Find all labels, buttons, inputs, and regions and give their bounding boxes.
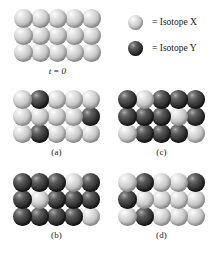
panel-d: (d)	[119, 174, 204, 225]
isotope-y-sphere	[135, 107, 154, 126]
isotope-x-sphere	[30, 107, 49, 126]
isotope-y-sphere	[152, 107, 171, 126]
isotope-x-sphere	[152, 207, 171, 226]
isotope-y-sphere	[47, 173, 66, 192]
isotope-x-sphere	[48, 43, 67, 62]
isotope-x-sphere	[65, 26, 84, 45]
isotope-x-sphere	[30, 190, 49, 209]
isotope-x-sphere	[64, 107, 83, 126]
isotope-y-sphere	[13, 190, 32, 209]
sphere-grid-c	[119, 91, 204, 142]
panel-caption-b: (b)	[14, 230, 99, 240]
isotope-y-sphere	[64, 190, 83, 209]
legend-label-isotope-x: = Isotope X	[152, 17, 197, 27]
isotope-y-sphere	[152, 90, 171, 109]
isotope-x-sphere	[186, 124, 205, 143]
isotope-x-sphere	[81, 90, 100, 109]
isotope-x-sphere	[64, 124, 83, 143]
panel-b: (b)	[14, 174, 99, 225]
isotope-y-sphere	[186, 107, 205, 126]
isotope-y-sphere	[30, 124, 49, 143]
isotope-x-sphere	[82, 43, 101, 62]
panel-caption-d: (d)	[119, 230, 204, 240]
isotope-y-sphere	[135, 124, 154, 143]
isotope-x-sphere	[81, 207, 100, 226]
isotope-y-sphere	[169, 124, 188, 143]
panel-initial: t = 0	[15, 10, 100, 61]
isotope-y-sphere	[30, 207, 49, 226]
panel-caption-c: (c)	[119, 147, 204, 157]
isotope-x-sphere	[169, 190, 188, 209]
isotope-y-sphere	[30, 173, 49, 192]
isotope-y-sphere	[118, 90, 137, 109]
isotope-x-sphere	[118, 173, 137, 192]
isotope-x-sphere	[186, 207, 205, 226]
isotope-x-sphere	[64, 173, 83, 192]
isotope-y-sphere	[135, 207, 154, 226]
isotope-x-sphere	[64, 90, 83, 109]
isotope-y-sphere	[118, 190, 137, 209]
isotope-x-sphere	[82, 9, 101, 28]
isotope-y-sphere	[186, 90, 205, 109]
sphere-grid-a	[14, 91, 99, 142]
isotope-y-sphere	[152, 124, 171, 143]
isotope-x-sphere	[13, 124, 32, 143]
time-value-label: 0	[62, 66, 67, 76]
isotope-x-sphere	[31, 43, 50, 62]
isotope-x-sphere	[169, 207, 188, 226]
isotope-x-sphere	[48, 9, 67, 28]
isotope-x-sphere	[31, 9, 50, 28]
light-sphere-icon	[128, 15, 143, 30]
isotope-y-sphere	[81, 190, 100, 209]
isotope-x-sphere	[14, 43, 33, 62]
isotope-x-sphere	[14, 9, 33, 28]
isotope-x-sphere	[81, 124, 100, 143]
isotope-y-sphere	[64, 207, 83, 226]
isotope-y-sphere	[135, 173, 154, 192]
isotope-y-sphere	[186, 173, 205, 192]
isotope-y-sphere	[118, 107, 137, 126]
isotope-y-sphere	[81, 107, 100, 126]
legend-item-isotope-y: = Isotope Y	[128, 35, 197, 61]
legend: = Isotope X = Isotope Y	[128, 9, 197, 61]
panel-caption-initial: t = 0	[15, 66, 100, 76]
isotope-y-sphere	[47, 207, 66, 226]
isotope-x-sphere	[118, 124, 137, 143]
isotope-x-sphere	[118, 207, 137, 226]
isotope-x-sphere	[65, 43, 84, 62]
isotope-y-sphere	[47, 190, 66, 209]
isotope-x-sphere	[135, 90, 154, 109]
isotope-x-sphere	[186, 190, 205, 209]
isotope-x-sphere	[169, 173, 188, 192]
isotope-x-sphere	[14, 26, 33, 45]
isotope-y-sphere	[81, 173, 100, 192]
isotope-x-sphere	[152, 173, 171, 192]
isotope-x-sphere	[65, 9, 84, 28]
isotope-x-sphere	[48, 26, 67, 45]
isotope-x-sphere	[13, 107, 32, 126]
isotope-y-sphere	[169, 90, 188, 109]
isotope-y-sphere	[13, 207, 32, 226]
isotope-x-sphere	[47, 124, 66, 143]
sphere-grid-b	[14, 174, 99, 225]
isotope-x-sphere	[31, 26, 50, 45]
isotope-x-sphere	[47, 107, 66, 126]
legend-item-isotope-x: = Isotope X	[128, 9, 197, 35]
isotope-x-sphere	[47, 90, 66, 109]
panel-a: (a)	[14, 91, 99, 142]
panel-caption-a: (a)	[14, 147, 99, 157]
panel-c: (c)	[119, 91, 204, 142]
legend-label-isotope-y: = Isotope Y	[152, 43, 197, 53]
isotope-y-sphere	[30, 90, 49, 109]
isotope-x-sphere	[152, 190, 171, 209]
isotope-x-sphere	[169, 107, 188, 126]
isotope-x-sphere	[82, 26, 101, 45]
isotope-x-sphere	[13, 90, 32, 109]
sphere-grid-d	[119, 174, 204, 225]
isotope-x-sphere	[135, 190, 154, 209]
isotope-y-sphere	[13, 173, 32, 192]
sphere-grid-initial	[15, 10, 100, 61]
dark-sphere-icon	[128, 41, 143, 56]
